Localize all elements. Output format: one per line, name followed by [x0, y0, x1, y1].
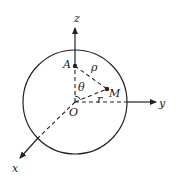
y-axis-label: y	[158, 97, 166, 110]
x-axis	[20, 102, 75, 158]
rho-label: ρ	[90, 61, 98, 74]
r-label: r	[97, 93, 103, 106]
theta-arc	[75, 96, 81, 100]
point-A-label: A	[62, 58, 71, 71]
x-axis-label: x	[12, 162, 19, 175]
point-A	[73, 64, 77, 68]
point-M-label: M	[108, 87, 121, 100]
z-axis-label: z	[73, 12, 80, 25]
sphere-diagram: z y x A M O ρ θ r	[0, 0, 175, 189]
theta-label: θ	[78, 81, 85, 94]
origin-label: O	[69, 106, 78, 119]
